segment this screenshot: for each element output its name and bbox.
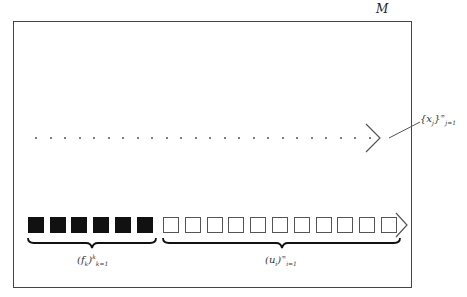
label-x-sub: j=1 [445,119,456,126]
brace-u [163,238,400,248]
label-u-sup: ∞ [281,253,286,260]
dots-arrow-icon [366,124,380,152]
label-x-sequence: {xj}∞j=1 [420,112,456,126]
label-u-sub: i=1 [286,260,297,267]
label-f-sup: k [92,253,96,260]
diagram-strokes [0,0,467,297]
label-f-sub: k=1 [96,260,108,267]
label-f-base: (f [77,254,85,265]
label-f-sequence: (fk)kk=1 [77,253,108,267]
label-x-base: {x [420,113,432,124]
x-leader-line [389,122,420,138]
label-x-sup: ∞ [440,112,445,119]
squares-arrow-icon [396,213,407,237]
label-u-sequence: (ui)∞i=1 [265,253,297,267]
label-u-base: (u [265,254,275,265]
brace-f [28,238,156,248]
